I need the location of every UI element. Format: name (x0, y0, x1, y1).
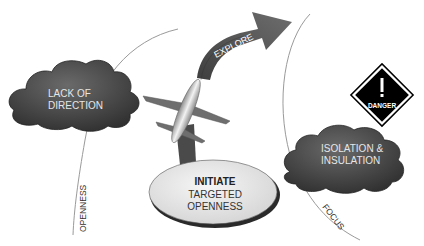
cloud-isolation-insulation: ISOLATION & INSULATION (284, 125, 403, 193)
explore-arrow: EXPLORE (197, 12, 292, 80)
airplane-icon (143, 77, 230, 145)
cloud-right-line-2: INSULATION (321, 155, 380, 166)
danger-sign-icon: DANGER (351, 64, 413, 126)
cloud-right-line-1: ISOLATION & (321, 143, 383, 154)
cloud-left-line-1: LACK OF (48, 88, 91, 99)
initiate-ellipse: INITIATE TARGETED OPENNESS (149, 160, 280, 228)
ellipse-title: INITIATE (195, 176, 236, 187)
danger-label: DANGER (368, 102, 396, 109)
diagram-canvas: EXPLORE LACK OF DIRECTION INITIATE TARGE… (0, 0, 424, 246)
ellipse-line-1: TARGETED (188, 189, 242, 200)
cloud-lack-of-direction: LACK OF DIRECTION (9, 60, 139, 131)
focus-axis-label: FOCUS (320, 202, 346, 232)
openness-axis-label: OPENNESS (78, 184, 88, 232)
cloud-left-line-2: DIRECTION (48, 100, 103, 111)
ellipse-line-2: OPENNESS (187, 201, 243, 212)
